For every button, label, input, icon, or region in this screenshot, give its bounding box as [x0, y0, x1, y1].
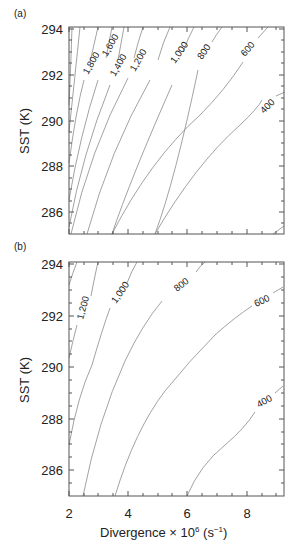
panel-b-axes-box: [69, 262, 284, 496]
contour-line: [155, 27, 222, 234]
panel-b-y-tick-labels: 294 292 290 288 286: [41, 257, 63, 478]
y-tick-label: 292: [41, 68, 63, 83]
panel-b-x-axis-label: Divergence × 106 (s−1): [100, 525, 227, 540]
panel-a-label: (a): [14, 8, 26, 19]
contour-label: 600: [238, 39, 257, 58]
contour-line: [273, 226, 284, 234]
panel-b-contours: [69, 262, 283, 496]
x-axis-label-unit: (s: [199, 525, 214, 540]
panel-a-y-tick-labels: 294 292 290 288 286: [41, 22, 63, 220]
x-axis-label-close: ): [223, 525, 227, 540]
y-tick-label: 288: [41, 159, 63, 174]
y-tick-label: 290: [41, 360, 63, 375]
contour-line: [83, 262, 205, 496]
contour-label: 1,000: [168, 39, 191, 65]
figure: (a) 1,800 1,600 1,400 1,200 1,000 800: [0, 0, 298, 553]
y-tick-label: 294: [41, 22, 63, 37]
panel-b-y-axis-label: SST (K): [17, 357, 32, 403]
panel-b-x-tick-labels: 2 4 6 8: [65, 506, 250, 521]
panel-b-contour-labels: 1,200 1,000 800 600 400: [74, 275, 273, 410]
x-tick-label: 2: [65, 506, 72, 521]
contour-label: 1,200: [74, 295, 91, 321]
x-tick-label: 4: [124, 506, 131, 521]
contour-label: 1,800: [80, 50, 101, 76]
contour-label: 1,400: [107, 52, 128, 78]
y-tick-label: 294: [41, 257, 63, 272]
contour-label: 400: [258, 96, 277, 115]
panel-a-contour-labels: 1,800 1,600 1,400 1,200 1,000 800 600 40…: [80, 32, 276, 116]
panel-b-y-ticks: [69, 264, 284, 483]
y-tick-label: 288: [41, 412, 63, 427]
contour-line: [69, 27, 80, 132]
contour-label: 400: [255, 392, 274, 409]
y-tick-label: 292: [41, 309, 63, 324]
contour-label: 800: [171, 275, 190, 293]
contour-line: [69, 262, 77, 285]
y-tick-label: 286: [41, 205, 63, 220]
x-tick-label: 6: [183, 506, 190, 521]
y-tick-label: 286: [41, 463, 63, 478]
contour-label: 1,000: [109, 279, 132, 305]
panel-b: (b) 1,200 1,000 800 600 400 294: [14, 241, 284, 540]
panel-a-y-axis-label: SST (K): [17, 108, 32, 154]
x-tick-label: 8: [243, 506, 250, 521]
contour-label: 600: [252, 292, 271, 309]
panel-a: (a) 1,800 1,600 1,400 1,200 1,000 800: [14, 8, 285, 234]
y-tick-label: 290: [41, 114, 63, 129]
contour-label: 800: [195, 42, 213, 61]
x-axis-label-main: Divergence × 10: [100, 525, 195, 540]
panel-b-label: (b): [14, 241, 26, 252]
contour-line: [115, 287, 283, 496]
panel-b-x-ticks: [69, 262, 276, 496]
contour-label: 1,200: [127, 47, 148, 73]
